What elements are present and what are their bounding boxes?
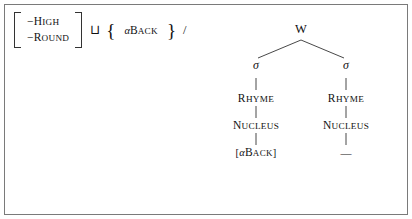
rhyme-right-rest: HYME	[336, 94, 364, 104]
tree-edges	[206, 18, 396, 168]
tree-node-rhyme-left: RHYME	[238, 92, 274, 104]
rhyme-left-first: R	[238, 92, 246, 104]
tree-node-nucleus-left: NUCLEUS	[233, 119, 279, 131]
rhyme-right-first: R	[328, 92, 336, 104]
matrix-row-round: −ROUND	[27, 30, 69, 46]
set-close-brace: }	[167, 21, 176, 40]
nucleus-right-first: N	[323, 119, 332, 131]
nucleus-left-rest: UCLEUS	[242, 121, 280, 131]
rhyme-left-rest: HYME	[246, 94, 274, 104]
set-item-label-rest: ACK	[138, 26, 158, 36]
feature-label-high-first: H	[34, 15, 43, 27]
leaf-label-rest: ACK	[253, 148, 273, 158]
feature-label-high-rest: IGH	[42, 17, 59, 27]
tree-node-rhyme-right: RHYME	[328, 92, 364, 104]
nucleus-left-first: N	[233, 119, 242, 131]
figure-container: −HIGH −ROUND ⊔ { αBACK } /	[0, 0, 412, 219]
set-item-label-first: B	[130, 24, 138, 36]
feature-label-round-first: R	[34, 31, 42, 43]
prosodic-tree: W σ σ RHYME RHYME NUCLEUS NUCLEUS [αBACK…	[206, 18, 396, 178]
feature-sign-round: −	[27, 31, 34, 43]
edge-w-sigma-right	[301, 40, 344, 58]
phonological-rule-formula: −HIGH −ROUND ⊔ { αBACK } /	[14, 10, 187, 50]
join-operator-icon: ⊔	[90, 22, 100, 38]
tree-leaf-aback: [αBACK]	[236, 146, 277, 158]
tree-node-nucleus-right: NUCLEUS	[323, 119, 369, 131]
tree-node-word: W	[295, 22, 307, 37]
matrix-row-high: −HIGH	[27, 14, 69, 30]
edge-w-sigma-left	[258, 40, 301, 58]
tree-node-sigma-left: σ	[253, 58, 259, 73]
set-open-brace: {	[106, 21, 115, 40]
matrix-rows: −HIGH −ROUND	[21, 12, 75, 48]
nucleus-right-rest: UCLEUS	[332, 121, 370, 131]
feature-label-round-rest: OUND	[42, 33, 70, 43]
environment-slash: /	[183, 23, 186, 38]
matrix-right-bracket	[75, 12, 82, 48]
matrix-left-bracket	[14, 12, 21, 48]
set-item-aback: αBACK	[115, 24, 167, 36]
feature-sign-high: −	[27, 15, 34, 27]
tree-node-sigma-right: σ	[343, 58, 349, 73]
leaf-close-bracket: ]	[273, 147, 277, 158]
tree-leaf-empty-slot: —	[341, 147, 352, 159]
feature-matrix: −HIGH −ROUND	[14, 12, 82, 48]
feature-set: { αBACK }	[106, 21, 176, 40]
